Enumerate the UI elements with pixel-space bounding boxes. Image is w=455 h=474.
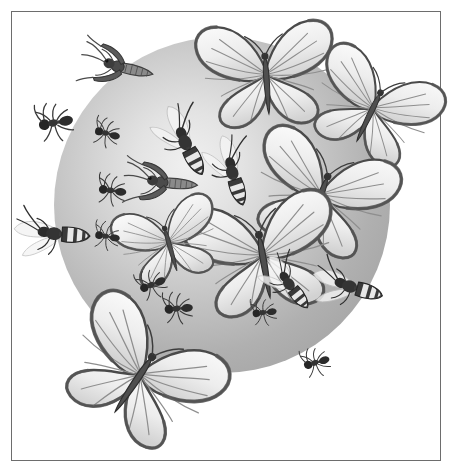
insect-illustration bbox=[0, 0, 455, 474]
illustration-stage: Insects radiating from a shaded circle g… bbox=[0, 0, 455, 474]
